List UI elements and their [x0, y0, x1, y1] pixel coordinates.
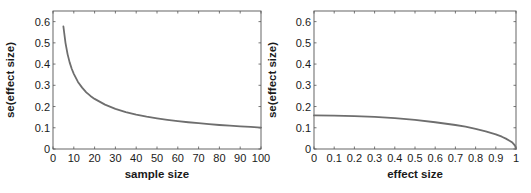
x-tick-label: 0.2	[347, 152, 362, 164]
axes-frame	[53, 11, 261, 149]
x-tick-label: 0.4	[387, 152, 402, 164]
axes-frame	[314, 11, 516, 149]
y-tick-label: 0.2	[296, 101, 311, 113]
x-tick-label: 0.1	[327, 152, 342, 164]
x-tick-label: 70	[192, 152, 204, 164]
x-tick-label: 40	[130, 152, 142, 164]
x-tick-label: 0.9	[488, 152, 503, 164]
x-tick-label: 0.3	[367, 152, 382, 164]
figure: 010203040506070809010000.10.20.30.40.50.…	[0, 0, 531, 193]
x-tick-label: 10	[68, 152, 80, 164]
data-line	[63, 27, 261, 128]
x-axis-label: effect size	[387, 168, 443, 180]
y-axis-label: se(effect size)	[4, 42, 16, 118]
y-tick-label: 0.3	[35, 79, 50, 91]
x-tick-label: 80	[213, 152, 225, 164]
plot-se-vs-sample-size: 010203040506070809010000.10.20.30.40.50.…	[4, 11, 270, 180]
x-tick-label: 60	[172, 152, 184, 164]
y-tick-label: 0.6	[296, 16, 311, 28]
y-tick-label: 0	[305, 143, 311, 155]
x-axis-label: sample size	[125, 168, 190, 180]
x-tick-label: 0.7	[448, 152, 463, 164]
y-tick-label: 0.5	[35, 37, 50, 49]
y-tick-label: 0	[44, 143, 50, 155]
x-tick-label: 30	[109, 152, 121, 164]
x-tick-label: 0.5	[407, 152, 422, 164]
x-tick-label: 50	[151, 152, 163, 164]
x-tick-label: 90	[234, 152, 246, 164]
x-tick-label: 0	[50, 152, 56, 164]
x-tick-label: 100	[252, 152, 270, 164]
x-tick-label: 0	[311, 152, 317, 164]
data-line	[314, 115, 516, 149]
x-tick-label: 1	[513, 152, 519, 164]
y-axis-label: se(effect size)	[266, 42, 278, 118]
x-tick-label: 0.8	[468, 152, 483, 164]
y-tick-label: 0.5	[296, 37, 311, 49]
y-tick-label: 0.1	[35, 122, 50, 134]
y-tick-label: 0.6	[35, 16, 50, 28]
y-tick-label: 0.4	[35, 58, 50, 70]
plot-se-vs-effect-size: 00.10.20.30.40.50.60.70.80.9100.10.20.30…	[266, 11, 519, 180]
y-tick-label: 0.3	[296, 79, 311, 91]
y-tick-label: 0.1	[296, 122, 311, 134]
x-tick-label: 0.6	[428, 152, 443, 164]
figure-canvas: 010203040506070809010000.10.20.30.40.50.…	[0, 0, 531, 193]
y-tick-label: 0.4	[296, 58, 311, 70]
x-tick-label: 20	[88, 152, 100, 164]
y-tick-label: 0.2	[35, 101, 50, 113]
